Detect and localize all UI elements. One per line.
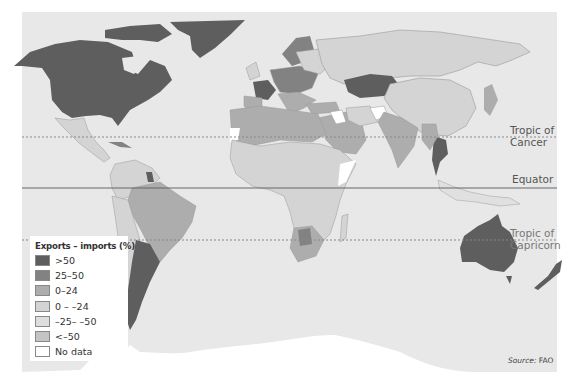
legend-label: –25– –50 bbox=[55, 316, 96, 327]
source-credit: Source: FAO bbox=[508, 356, 553, 365]
legend-item: No data bbox=[35, 344, 128, 359]
legend-label: 0–24 bbox=[55, 285, 78, 296]
source-value: FAO bbox=[539, 356, 554, 365]
equator-label: Equator bbox=[512, 173, 553, 185]
legend: Exports – imports (%) >50 25–50 0–24 0 –… bbox=[30, 236, 128, 361]
legend-swatch bbox=[35, 270, 50, 281]
legend-swatch bbox=[35, 301, 50, 312]
legend-item: 0 – –24 bbox=[35, 299, 128, 314]
legend-item: 0–24 bbox=[35, 283, 128, 298]
legend-item: –25– –50 bbox=[35, 314, 128, 329]
legend-label: 0 – –24 bbox=[55, 301, 89, 312]
legend-swatch bbox=[35, 346, 50, 357]
legend-item: >50 bbox=[35, 253, 128, 268]
legend-item: 25–50 bbox=[35, 268, 128, 283]
legend-item: <–50 bbox=[35, 329, 128, 344]
legend-swatch bbox=[35, 255, 50, 266]
legend-swatch bbox=[35, 316, 50, 327]
source-label: Source: bbox=[508, 356, 536, 365]
botswana bbox=[298, 228, 312, 246]
legend-label: 25–50 bbox=[55, 270, 84, 281]
tropic-of-cancer-label: Tropic of Cancer bbox=[510, 124, 554, 148]
legend-label: >50 bbox=[55, 255, 75, 266]
legend-swatch bbox=[35, 285, 50, 296]
legend-swatch bbox=[35, 331, 50, 342]
legend-label: No data bbox=[55, 346, 92, 357]
legend-title: Exports – imports (%) bbox=[35, 241, 128, 251]
legend-label: <–50 bbox=[55, 331, 80, 342]
tropic-of-capricorn-label: Tropic of Capricorn bbox=[510, 227, 561, 251]
